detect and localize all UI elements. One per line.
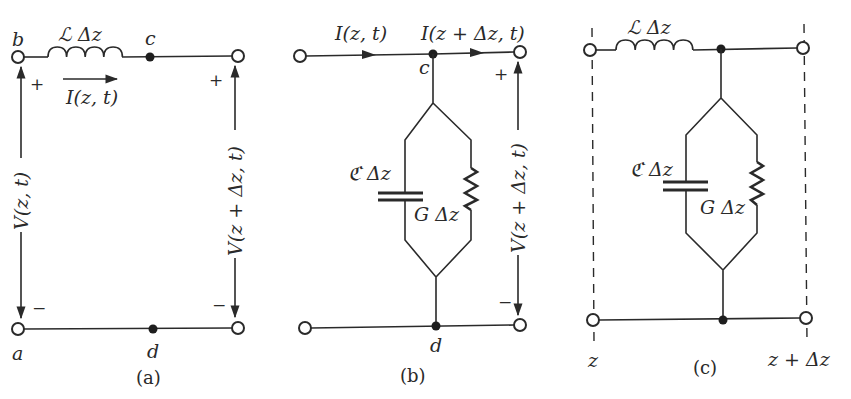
- wire: [693, 48, 797, 50]
- node-d: [149, 325, 158, 334]
- terminal-top-left: [584, 44, 596, 56]
- current-out-arrow-icon: [470, 48, 484, 57]
- label-capacitance: ℭ Δz: [348, 162, 392, 184]
- label-voltage-left: V(z, t): [10, 172, 32, 230]
- label-voltage-right: V(z + Δz, t): [507, 143, 529, 253]
- resistor-icon: [465, 168, 477, 210]
- terminal-top-right: [514, 46, 526, 58]
- label-plus-left: +: [30, 74, 44, 94]
- wire: [122, 56, 232, 57]
- transmission-line-diagram: b c a d ℒ Δz I(z, t) + + − − V(z, t) V(z…: [0, 0, 851, 399]
- label-current-out: I(z + Δz, t): [420, 22, 525, 44]
- label-minus-left: −: [32, 298, 46, 318]
- wire: [311, 325, 514, 328]
- label-conductance: G Δz: [414, 203, 460, 225]
- shunt-branch: [405, 54, 471, 326]
- label-node-a: a: [12, 342, 23, 364]
- label-plus-right: +: [209, 70, 223, 90]
- caption-b: (b): [400, 365, 426, 386]
- panel-c: ℒ Δz ℭ Δz G Δz z z + Δz (c): [584, 16, 831, 378]
- caption-a: (a): [136, 367, 161, 388]
- panel-b: I(z, t) I(z + Δz, t) c d ℭ Δz G Δz + − V…: [294, 22, 529, 386]
- terminal-bottom-left: [299, 322, 311, 334]
- boundary-z: [592, 28, 594, 342]
- label-voltage-right: V(z + Δz, t): [224, 146, 246, 256]
- terminal-bottom-right: [514, 319, 526, 331]
- label-node-b: b: [12, 28, 24, 50]
- label-minus-right: −: [212, 295, 226, 315]
- label-node-c: c: [419, 56, 430, 78]
- label-capacitance: ℭ Δz: [630, 158, 674, 180]
- label-inductance: ℒ Δz: [58, 23, 103, 45]
- label-inductance: ℒ Δz: [627, 16, 672, 38]
- inductor-icon: [616, 40, 693, 50]
- terminal-a: [12, 323, 24, 335]
- label-position-z: z: [587, 349, 599, 371]
- terminal-b: [12, 51, 24, 63]
- terminal-top-right: [797, 42, 809, 54]
- panel-a: b c a d ℒ Δz I(z, t) + + − − V(z, t) V(z…: [10, 23, 246, 388]
- label-node-d: d: [147, 340, 159, 362]
- label-position-z-plus-dz: z + Δz: [767, 348, 831, 370]
- label-node-d: d: [430, 334, 442, 356]
- node-c: [146, 53, 155, 62]
- caption-c: (c): [693, 357, 717, 378]
- label-minus: −: [498, 292, 512, 312]
- label-node-c: c: [145, 27, 156, 49]
- boundary-z-plus-dz: [804, 24, 807, 342]
- label-current-in: I(z, t): [334, 22, 387, 44]
- label-current: I(z, t): [65, 86, 118, 108]
- shunt-branch: [686, 49, 757, 320]
- label-plus: +: [494, 64, 508, 84]
- terminal-bottom-right: [232, 322, 244, 334]
- terminal-top-left: [294, 50, 306, 62]
- terminal-bottom-right: [800, 312, 812, 324]
- node-d: [432, 322, 441, 331]
- inductor-icon: [48, 47, 122, 57]
- wire: [24, 328, 232, 329]
- terminal-top-right: [232, 50, 244, 62]
- current-in-arrow-icon: [362, 50, 376, 59]
- resistor-icon: [751, 162, 763, 205]
- terminal-bottom-left: [587, 314, 599, 326]
- wire: [599, 318, 800, 320]
- label-conductance: G Δz: [700, 196, 746, 218]
- node-bottom: [719, 316, 728, 325]
